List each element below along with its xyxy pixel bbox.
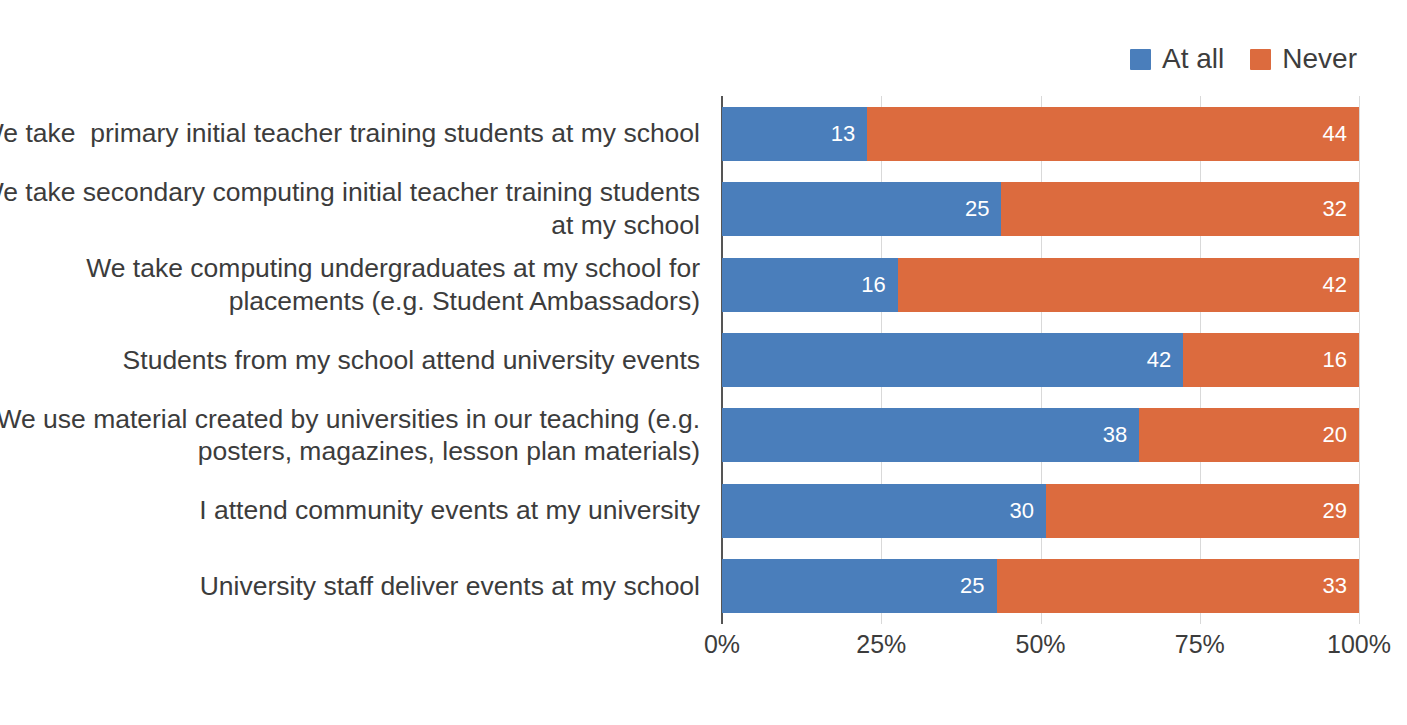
bar-segment[interactable]: 13: [722, 107, 867, 161]
bar-row[interactable]: 1344: [722, 107, 1359, 161]
legend-swatch-icon: [1250, 49, 1271, 70]
bar-value-label: 13: [831, 123, 867, 145]
bar-value-label: 30: [1009, 500, 1045, 522]
category-label-line: We take computing undergraduates at my s…: [86, 252, 700, 285]
bar-value-label: 42: [1323, 274, 1359, 296]
category-label: I attend community events at my universi…: [0, 473, 708, 548]
bar-segment[interactable]: 32: [1001, 182, 1359, 236]
x-tick-label: 75%: [1175, 630, 1225, 659]
category-label-line: We take secondary computing initial teac…: [0, 176, 700, 209]
bar-segment[interactable]: 29: [1046, 484, 1359, 538]
bar-value-label: 38: [1103, 424, 1139, 446]
x-tick-label: 50%: [1015, 630, 1065, 659]
category-label: University staff deliver events at my sc…: [0, 549, 708, 624]
category-label: We take primary initial teacher training…: [0, 96, 708, 171]
x-axis-tick-labels: 0%25%50%75%100%: [722, 630, 1359, 670]
category-label-line: I attend community events at my universi…: [199, 494, 700, 527]
x-tick-label: 0%: [704, 630, 740, 659]
bar-value-label: 16: [861, 274, 897, 296]
bar-segment[interactable]: 42: [898, 258, 1359, 312]
bar-value-label: 25: [960, 575, 996, 597]
bar-segment[interactable]: 16: [722, 258, 898, 312]
category-label: We take secondary computing initial teac…: [0, 171, 708, 246]
bar-value-label: 32: [1323, 198, 1359, 220]
gridline: [1359, 96, 1360, 624]
category-label: Students from my school attend universit…: [0, 322, 708, 397]
bar-segment[interactable]: 16: [1183, 333, 1359, 387]
category-label-line: at my school: [551, 209, 700, 242]
bar-value-label: 20: [1323, 424, 1359, 446]
bar-value-label: 33: [1323, 575, 1359, 597]
bar-value-label: 16: [1323, 349, 1359, 371]
bar-row[interactable]: 3029: [722, 484, 1359, 538]
legend-entry[interactable]: Never: [1250, 45, 1357, 73]
bar-value-label: 29: [1323, 500, 1359, 522]
bar-segment[interactable]: 30: [722, 484, 1046, 538]
bar-segment[interactable]: 44: [867, 107, 1359, 161]
bar-segment[interactable]: 25: [722, 182, 1001, 236]
chart-legend: At allNever: [1130, 42, 1357, 76]
stacked-bar-chart: At allNever We take primary initial teac…: [0, 0, 1407, 725]
bar-value-label: 44: [1323, 123, 1359, 145]
category-label-line: University staff deliver events at my sc…: [200, 570, 700, 603]
bar-segment[interactable]: 38: [722, 408, 1139, 462]
x-tick-label: 25%: [856, 630, 906, 659]
category-label: We take computing undergraduates at my s…: [0, 247, 708, 322]
category-label: We use material created by universities …: [0, 398, 708, 473]
category-label-line: placements (e.g. Student Ambassadors): [229, 285, 700, 318]
x-tick-label: 100%: [1327, 630, 1391, 659]
legend-label: At all: [1162, 45, 1224, 73]
category-label-line: We use material created by universities …: [0, 403, 700, 436]
legend-label: Never: [1282, 45, 1357, 73]
bar-row[interactable]: 4216: [722, 333, 1359, 387]
bar-row[interactable]: 2533: [722, 559, 1359, 613]
bar-value-label: 25: [965, 198, 1001, 220]
legend-entry[interactable]: At all: [1130, 45, 1224, 73]
bar-segment[interactable]: 33: [997, 559, 1359, 613]
bar-row[interactable]: 3820: [722, 408, 1359, 462]
bar-segment[interactable]: 25: [722, 559, 997, 613]
category-axis-labels: We take primary initial teacher training…: [0, 96, 708, 624]
bar-row[interactable]: 1642: [722, 258, 1359, 312]
bar-value-label: 42: [1147, 349, 1183, 371]
bar-row[interactable]: 2532: [722, 182, 1359, 236]
category-label-line: posters, magazines, lesson plan material…: [198, 435, 700, 468]
category-label-line: We take primary initial teacher training…: [0, 117, 700, 150]
bar-rows: 1344253216424216382030292533: [722, 96, 1359, 624]
category-label-line: Students from my school attend universit…: [123, 344, 700, 377]
bar-segment[interactable]: 42: [722, 333, 1183, 387]
legend-swatch-icon: [1130, 49, 1151, 70]
plot-area: 1344253216424216382030292533: [722, 96, 1359, 624]
bar-segment[interactable]: 20: [1139, 408, 1359, 462]
